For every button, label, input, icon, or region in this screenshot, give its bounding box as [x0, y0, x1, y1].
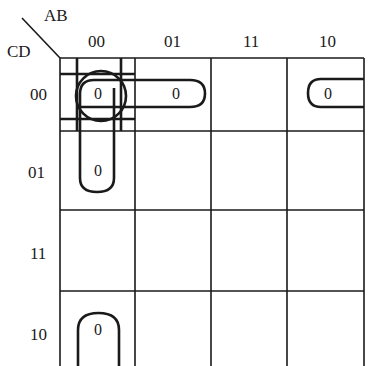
karnaugh-map: AB CD 00 01 11 10 00 01 11 10 0 0 0 0 0 — [0, 0, 368, 366]
grid-lines — [60, 58, 364, 366]
col-header-10: 10 — [319, 33, 336, 50]
groupings — [60, 58, 364, 366]
cell-r0-c3: 0 — [324, 86, 332, 102]
col-header-00: 00 — [88, 33, 105, 50]
cell-r0-c0: 0 — [94, 86, 102, 102]
row-header-00: 00 — [30, 86, 47, 103]
row-header-11: 11 — [30, 245, 46, 262]
col-header-11: 11 — [243, 33, 259, 50]
row-header-01: 01 — [28, 164, 45, 181]
cell-r1-c0: 0 — [94, 163, 102, 179]
col-header-01: 01 — [164, 33, 181, 50]
row-header-10: 10 — [30, 326, 47, 343]
karnaugh-map-graphic — [0, 0, 368, 366]
col-variable-label: AB — [44, 7, 68, 24]
row-00-wrap-right-loop — [308, 79, 364, 107]
row-variable-label: CD — [7, 43, 31, 60]
cell-r0-c1: 0 — [172, 86, 180, 102]
cell-r3-c0: 0 — [94, 322, 102, 338]
